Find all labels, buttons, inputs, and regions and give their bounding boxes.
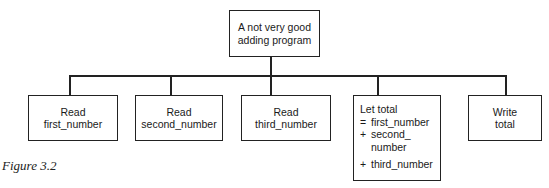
child-3-label-line-1: Read bbox=[273, 106, 298, 119]
calc-text-2: second_ bbox=[371, 128, 411, 141]
figure-caption: Figure 3.2 bbox=[2, 158, 56, 174]
read-third-number-box: Read third_number bbox=[241, 95, 331, 141]
child-connector-5 bbox=[505, 75, 507, 95]
horizontal-bus-line bbox=[69, 75, 506, 77]
child-connector-3 bbox=[270, 75, 272, 95]
child-2-label-line-1: Read bbox=[166, 106, 191, 119]
child-connector-2 bbox=[170, 75, 172, 95]
root-node-label-line-2: adding program bbox=[238, 34, 312, 47]
child-connector-1 bbox=[69, 75, 71, 95]
calc-text-3: number bbox=[371, 141, 407, 154]
root-node-box: A not very good adding program bbox=[229, 10, 320, 57]
root-connector-vertical bbox=[270, 56, 272, 75]
child-1-label-line-2: first_number bbox=[44, 118, 102, 131]
child-5-label-line-1: Write bbox=[493, 106, 517, 119]
calc-text-4: third_number bbox=[371, 158, 433, 171]
calc-row-4: + third_number bbox=[360, 158, 440, 171]
calc-row-3: number bbox=[360, 141, 440, 154]
let-total-title: Let total bbox=[360, 103, 440, 116]
calc-op-3 bbox=[360, 141, 371, 154]
calc-text-1: first_number bbox=[371, 116, 429, 129]
read-first-number-box: Read first_number bbox=[28, 95, 118, 141]
read-second-number-box: Read second_number bbox=[135, 95, 223, 141]
let-total-title-text: Let total bbox=[360, 103, 397, 116]
write-total-box: Write total bbox=[468, 95, 542, 141]
child-1-label-line-1: Read bbox=[60, 106, 85, 119]
calc-op-2: + bbox=[360, 128, 371, 141]
child-5-label-line-2: total bbox=[495, 118, 515, 131]
calc-row-1: = first_number bbox=[360, 116, 440, 129]
calc-op-1: = bbox=[360, 116, 371, 129]
calc-row-2: + second_ bbox=[360, 128, 440, 141]
let-total-box: Let total = first_number + second_ numbe… bbox=[353, 95, 441, 181]
child-connector-4 bbox=[377, 75, 379, 95]
calc-op-4: + bbox=[360, 158, 371, 171]
root-node-label-line-1: A not very good bbox=[238, 21, 311, 34]
child-3-label-line-2: third_number bbox=[255, 118, 317, 131]
child-2-label-line-2: second_number bbox=[141, 118, 216, 131]
